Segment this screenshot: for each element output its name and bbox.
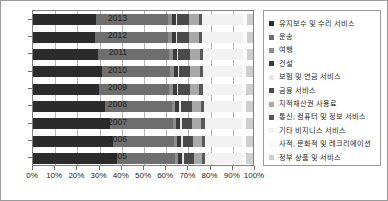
- bar-segment[interactable]: [246, 118, 253, 129]
- plot-area: [32, 10, 254, 166]
- legend-item[interactable]: 통신, 컴퓨터 및 정보 서비스: [269, 111, 376, 124]
- legend-label: 통신, 컴퓨터 및 정보 서비스: [279, 113, 366, 121]
- y-axis-tick-label: 2013: [67, 14, 127, 23]
- legend-item[interactable]: 지적재산권 사용료: [269, 97, 376, 110]
- bar-segment[interactable]: [181, 101, 192, 112]
- legend-swatch-icon: [269, 142, 274, 147]
- bar-segment[interactable]: [192, 118, 201, 129]
- legend-item[interactable]: 여행: [269, 44, 376, 57]
- bar-segment[interactable]: [183, 136, 193, 147]
- bar-segment[interactable]: [246, 66, 253, 77]
- bar-segment[interactable]: [189, 32, 199, 43]
- x-axis-tick-mark: [165, 166, 166, 170]
- y-axis-tick-mark: [28, 105, 32, 106]
- bar-segment[interactable]: [203, 49, 243, 60]
- bar-segment[interactable]: [247, 32, 253, 43]
- legend-item[interactable]: 금융 서비스: [269, 84, 376, 97]
- y-axis-tick-mark: [28, 36, 32, 37]
- bar-segment[interactable]: [190, 66, 200, 77]
- x-axis-tick-mark: [99, 166, 100, 170]
- bar-segment[interactable]: [204, 101, 242, 112]
- y-axis-tick-label: 2012: [67, 31, 127, 40]
- bar-segment[interactable]: [194, 153, 203, 164]
- bar-segment[interactable]: [182, 118, 193, 129]
- bar-segment[interactable]: [247, 14, 253, 25]
- bar-segment[interactable]: [203, 84, 242, 95]
- bar-segment[interactable]: [202, 32, 243, 43]
- x-axis-tick-mark: [76, 166, 77, 170]
- legend-label: 운송: [279, 33, 293, 41]
- y-axis-tick-mark: [28, 88, 32, 89]
- bar-segment[interactable]: [179, 66, 190, 77]
- bar-segment[interactable]: [246, 136, 253, 147]
- legend-swatch-icon: [269, 128, 274, 133]
- chart-legend: 유지보수 및 수리 서비스운송여행건설보험 및 연금 서비스금융 서비스지적재산…: [263, 10, 381, 166]
- bar-segment[interactable]: [246, 84, 253, 95]
- legend-item[interactable]: 보험 및 연금 서비스: [269, 71, 376, 84]
- x-axis-tick-mark: [232, 166, 233, 170]
- y-axis-tick-label: 2005: [67, 152, 127, 161]
- x-axis: 0%10%20%30%40%50%60%70%80%90%100%: [32, 166, 254, 186]
- bar-segment[interactable]: [190, 84, 199, 95]
- legend-label: 건설: [279, 60, 293, 68]
- bar-row[interactable]: [33, 14, 253, 25]
- bar-segment[interactable]: [189, 14, 199, 25]
- legend-label: 정부 상품 및 서비스: [279, 154, 341, 162]
- legend-label: 여행: [279, 46, 293, 54]
- bar-segment[interactable]: [177, 14, 189, 25]
- bar-segment[interactable]: [203, 66, 242, 77]
- legend-item[interactable]: 운송: [269, 30, 376, 43]
- bar-row[interactable]: [33, 136, 253, 147]
- bar-segment[interactable]: [184, 153, 194, 164]
- legend-item[interactable]: 정부 상품 및 서비스: [269, 151, 376, 164]
- x-axis-tick-mark: [32, 166, 33, 170]
- bar-segment[interactable]: [190, 49, 200, 60]
- y-axis-tick-label: 2011: [67, 48, 127, 57]
- legend-item[interactable]: 건설: [269, 57, 376, 70]
- legend-label: 지적재산권 사용료: [279, 100, 337, 108]
- bar-row[interactable]: [33, 32, 253, 43]
- bar-row[interactable]: [33, 101, 253, 112]
- bar-row[interactable]: [33, 84, 253, 95]
- bar-segment[interactable]: [192, 101, 201, 112]
- legend-label: 기타 비지니스 서비스: [279, 127, 346, 135]
- bar-row[interactable]: [33, 66, 253, 77]
- legend-item[interactable]: 기타 비지니스 서비스: [269, 124, 376, 137]
- y-axis-tick-label: 2008: [67, 100, 127, 109]
- chart-figure: 0%10%20%30%40%50%60%70%80%90%100% 유지보수 및…: [0, 0, 388, 201]
- legend-swatch-icon: [269, 35, 274, 40]
- plot-wrapper: [32, 10, 254, 166]
- x-axis-tick-label: 100%: [237, 171, 271, 180]
- bar-row[interactable]: [33, 49, 253, 60]
- y-axis-tick-mark: [28, 53, 32, 54]
- bar-segment[interactable]: [205, 118, 242, 129]
- bar-segment[interactable]: [205, 153, 241, 164]
- bar-row[interactable]: [33, 118, 253, 129]
- bar-segment[interactable]: [205, 136, 242, 147]
- legend-swatch-icon: [269, 48, 274, 53]
- y-axis-tick-label: 2006: [67, 135, 127, 144]
- x-axis-tick-mark: [121, 166, 122, 170]
- legend-swatch-icon: [269, 61, 274, 66]
- bar-segment[interactable]: [246, 101, 253, 112]
- bar-segment[interactable]: [193, 136, 202, 147]
- legend-item[interactable]: 사적, 문화적 및 레크리에이션: [269, 138, 376, 151]
- legend-item[interactable]: 유지보수 및 수리 서비스: [269, 17, 376, 30]
- legend-swatch-icon: [269, 155, 274, 160]
- legend-label: 보험 및 연금 서비스: [279, 73, 341, 81]
- y-axis-tick-mark: [28, 157, 32, 158]
- bar-segment[interactable]: [178, 84, 189, 95]
- y-axis-tick-label: 2010: [67, 66, 127, 75]
- y-axis-tick-label: 2007: [67, 118, 127, 127]
- bar-segment[interactable]: [178, 49, 190, 60]
- bar-segment[interactable]: [177, 32, 189, 43]
- x-axis-tick-mark: [210, 166, 211, 170]
- bar-segment[interactable]: [247, 49, 253, 60]
- bar-segment[interactable]: [246, 153, 253, 164]
- x-axis-tick-mark: [187, 166, 188, 170]
- y-axis-tick-label: 2009: [67, 83, 127, 92]
- bar-row[interactable]: [33, 153, 253, 164]
- bar-segment[interactable]: [202, 14, 243, 25]
- y-axis-tick-mark: [28, 71, 32, 72]
- y-axis-tick-mark: [28, 19, 32, 20]
